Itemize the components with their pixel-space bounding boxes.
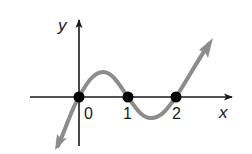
cubic-graph-figure: y x 0 1 2 <box>0 0 252 154</box>
zero-point-0 <box>74 92 85 103</box>
x-tick-label-0: 0 <box>84 106 93 122</box>
x-tick-label-1: 1 <box>123 106 132 122</box>
x-tick-label-2: 2 <box>172 106 181 122</box>
graph-canvas <box>0 0 252 154</box>
x-axis-label: x <box>219 104 228 121</box>
y-axis-label: y <box>58 17 67 34</box>
zero-point-2 <box>171 92 182 103</box>
zero-point-1 <box>123 92 134 103</box>
